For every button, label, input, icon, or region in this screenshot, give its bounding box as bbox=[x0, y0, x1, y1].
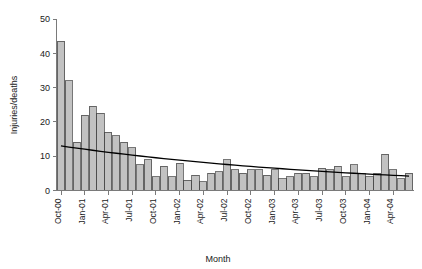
x-tick-label: Apr-04 bbox=[385, 198, 395, 224]
x-tick-label: Oct-00 bbox=[53, 198, 63, 224]
bar bbox=[137, 165, 144, 191]
x-axis-ticks: Oct-00Jan-01Apr-01Jul-01Oct-01Jan-02Apr-… bbox=[53, 191, 395, 225]
chart-container: 01020304050 Oct-00Jan-01Apr-01Jul-01Oct-… bbox=[0, 0, 422, 269]
bar bbox=[176, 163, 183, 190]
bar bbox=[73, 142, 80, 190]
y-tick-label: 20 bbox=[40, 117, 50, 127]
y-tick-label: 30 bbox=[40, 83, 50, 93]
bar bbox=[129, 148, 136, 191]
bar bbox=[216, 172, 223, 191]
y-tick-label: 50 bbox=[40, 14, 50, 24]
bar bbox=[168, 177, 175, 191]
bar bbox=[255, 170, 262, 191]
bar bbox=[350, 165, 357, 191]
x-tick-label: Jul-02 bbox=[219, 198, 229, 221]
bar bbox=[303, 173, 310, 190]
bars-layer bbox=[57, 41, 412, 190]
bar bbox=[295, 173, 302, 190]
bar bbox=[113, 136, 120, 191]
bar bbox=[81, 115, 88, 190]
bar bbox=[326, 170, 333, 191]
bar bbox=[247, 170, 254, 191]
bar bbox=[208, 173, 215, 190]
bar bbox=[374, 173, 381, 190]
bar bbox=[200, 182, 207, 191]
bar bbox=[105, 132, 112, 190]
bar bbox=[144, 160, 151, 191]
x-tick-label: Apr-01 bbox=[100, 198, 110, 224]
x-tick-label: Jul-03 bbox=[314, 198, 324, 221]
bar bbox=[390, 170, 397, 191]
x-tick-label: Oct-02 bbox=[243, 198, 253, 224]
bar bbox=[160, 166, 167, 190]
bar bbox=[231, 170, 238, 191]
x-tick-label: Oct-01 bbox=[148, 198, 158, 224]
bar bbox=[152, 177, 159, 191]
bar bbox=[89, 106, 96, 190]
y-tick-label: 10 bbox=[40, 151, 50, 161]
x-tick-label: Jan-02 bbox=[172, 198, 182, 224]
x-axis-title: Month bbox=[205, 254, 230, 264]
bar bbox=[192, 175, 199, 190]
bar bbox=[279, 179, 286, 191]
x-tick-label: Apr-03 bbox=[290, 198, 300, 224]
bar bbox=[263, 175, 270, 190]
y-tick-label: 40 bbox=[40, 49, 50, 59]
y-axis-title: Injuries/deaths bbox=[9, 75, 19, 134]
injuries-deaths-bar-chart: 01020304050 Oct-00Jan-01Apr-01Jul-01Oct-… bbox=[0, 0, 422, 269]
bar bbox=[366, 177, 373, 191]
x-tick-label: Jan-04 bbox=[362, 198, 372, 224]
x-tick-label: Jan-01 bbox=[77, 198, 87, 224]
y-axis-ticks: 01020304050 bbox=[40, 14, 57, 196]
bar bbox=[65, 81, 72, 191]
y-tick-label: 0 bbox=[45, 186, 50, 196]
x-tick-label: Oct-03 bbox=[338, 198, 348, 224]
bar bbox=[334, 166, 341, 190]
bar bbox=[271, 170, 278, 191]
bar bbox=[57, 41, 64, 190]
bar bbox=[358, 173, 365, 190]
bar bbox=[311, 177, 318, 191]
bar bbox=[398, 179, 405, 191]
x-tick-label: Apr-02 bbox=[195, 198, 205, 224]
bar bbox=[287, 177, 294, 191]
x-tick-label: Jan-03 bbox=[267, 198, 277, 224]
bar bbox=[382, 154, 389, 190]
bar bbox=[342, 177, 349, 191]
x-tick-label: Jul-01 bbox=[124, 198, 134, 221]
bar bbox=[121, 142, 128, 190]
bar bbox=[239, 173, 246, 190]
bar bbox=[184, 180, 191, 190]
